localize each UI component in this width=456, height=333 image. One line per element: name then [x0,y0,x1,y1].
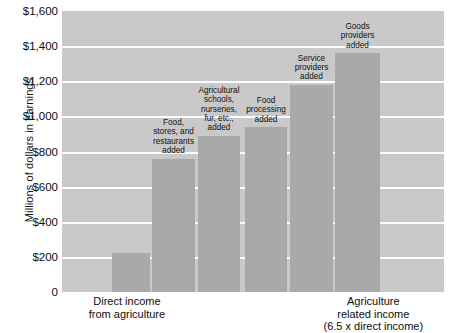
bar-label: Service providers added [281,54,342,82]
x-axis-label: Direct income from agriculture [47,295,207,320]
bar [290,85,333,292]
bar [245,127,287,292]
bar [335,53,380,292]
bar [198,136,240,292]
y-tick-label: $800 [0,146,58,158]
y-tick-label: $1,600 [0,5,58,17]
bar [152,159,195,292]
y-axis-tick-labels: $1,600 $1,400 $1,200 $1,000 $800 $600 $4… [0,0,58,330]
bar-label: Goods providers added [326,22,389,50]
bar [112,253,150,292]
y-tick-label: $400 [0,216,58,228]
y-tick-label: $600 [0,181,58,193]
bar-label: Food processing added [236,96,296,124]
x-axis-label: Agriculture related income (6.5 x direct… [293,295,453,333]
y-tick-label: $200 [0,251,58,263]
gridline [62,81,444,83]
y-tick-label: $1,400 [0,40,58,52]
y-tick-label: $1,200 [0,75,58,87]
plot-area: Food, stores, and restaurants addedAgric… [62,11,444,292]
y-tick-label: $1,000 [0,110,58,122]
